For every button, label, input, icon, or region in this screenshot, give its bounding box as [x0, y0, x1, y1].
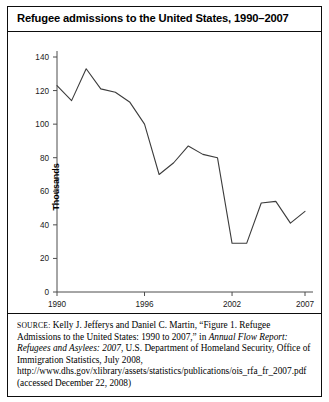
- x-tick-label: 1996: [135, 300, 154, 309]
- y-tick-label: 60: [40, 187, 50, 196]
- figure-container: Refugee admissions to the United States,…: [0, 0, 329, 402]
- x-tick-label: 2007: [296, 300, 315, 309]
- y-tick-label: 140: [35, 53, 49, 62]
- y-tick-label: 120: [35, 87, 49, 96]
- source-divider: [8, 313, 321, 314]
- y-tick-label: 20: [40, 254, 50, 263]
- chart-plot-area: Thousands 020406080100120140 19901996200…: [8, 32, 321, 310]
- x-tick-label: 1990: [48, 300, 67, 309]
- figure-title: Refugee admissions to the United States,…: [17, 12, 312, 25]
- y-tick-label: 0: [44, 288, 49, 297]
- y-tick-label: 80: [40, 154, 50, 163]
- y-tick-label: 40: [40, 221, 50, 230]
- source-label: SOURCE:: [17, 321, 50, 330]
- x-axis-ticks: 1990199620022007: [48, 292, 315, 309]
- y-axis-title: Thousands: [51, 127, 61, 247]
- y-tick-label: 100: [35, 120, 49, 129]
- x-tick-label: 2002: [223, 300, 242, 309]
- data-series-line: [57, 69, 305, 244]
- source-citation: SOURCE: Kelly J. Jefferys and Daniel C. …: [17, 320, 313, 390]
